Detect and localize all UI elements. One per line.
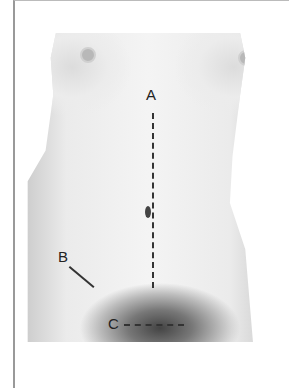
left-nipple <box>80 47 96 63</box>
navel <box>145 206 151 218</box>
label-b: B <box>58 248 68 265</box>
label-a: A <box>146 86 156 103</box>
incision-line-c <box>124 324 184 326</box>
incision-line-a <box>152 113 154 288</box>
label-c: C <box>108 315 119 332</box>
